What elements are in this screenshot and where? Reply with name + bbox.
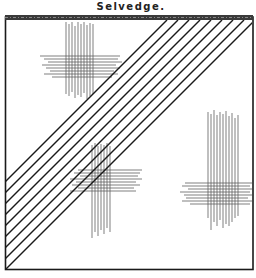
fabric-diagram xyxy=(0,0,256,278)
weave-patch-right xyxy=(180,110,252,230)
